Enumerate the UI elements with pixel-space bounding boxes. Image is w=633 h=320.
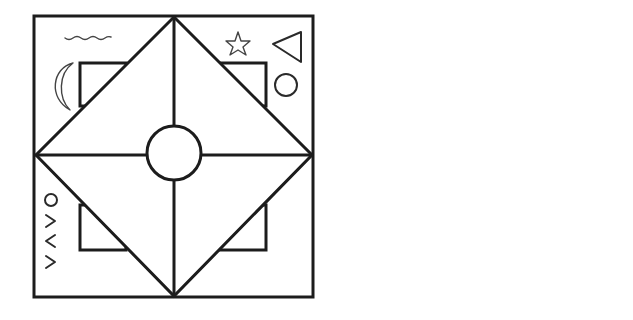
wavy-line-icon (65, 37, 111, 40)
crescent-moon-icon (55, 63, 73, 110)
circle-icon (275, 74, 297, 96)
triangle-icon (273, 32, 301, 62)
outline-star-icon (226, 32, 250, 55)
center-circle (147, 126, 201, 180)
left-panel (34, 16, 313, 297)
diagram-canvas (0, 0, 633, 320)
vavo-glyphs (45, 194, 57, 268)
